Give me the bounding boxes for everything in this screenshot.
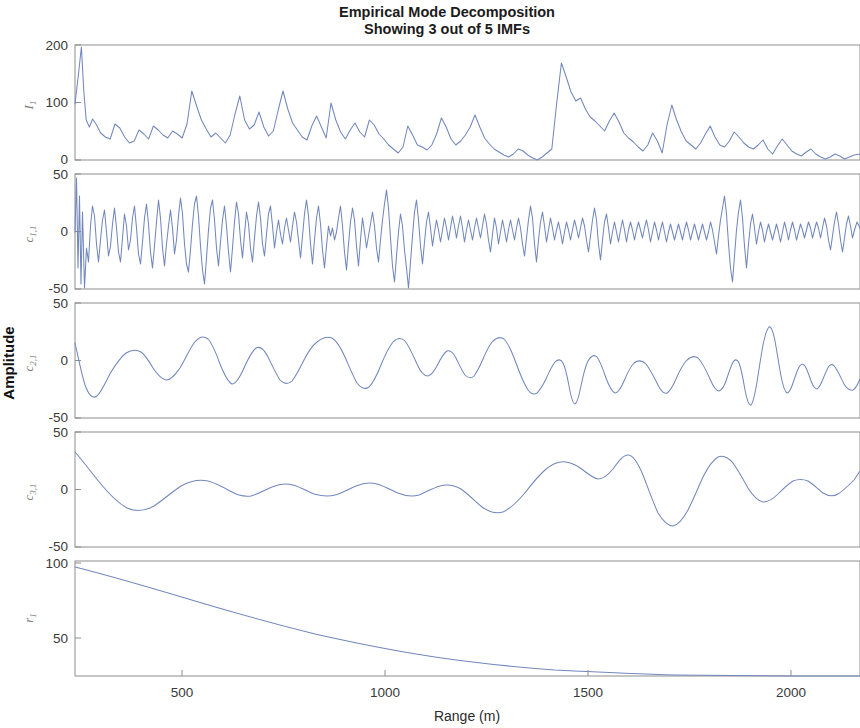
panel-imf2-ytick-50: 50 — [53, 296, 68, 311]
panel-imf3-ytick-m50: -50 — [48, 539, 68, 554]
panel-imf2-ytick-0: 0 — [60, 353, 68, 368]
emd-figure: Empirical Mode Decomposition Showing 3 o… — [0, 0, 860, 728]
x-axis-label-range: Range (m) — [434, 708, 500, 724]
panel-residual-ytick-50: 50 — [53, 631, 68, 646]
panel-imf2-ytick-m50: -50 — [48, 410, 68, 425]
y-axis-label-amplitude: Amplitude — [0, 326, 17, 399]
xtick-1000: 1000 — [370, 685, 400, 700]
xtick-1500: 1500 — [573, 685, 603, 700]
panel-imf1-ytick-50: 50 — [53, 167, 68, 182]
panel-imf1-ytick-0: 0 — [60, 224, 68, 239]
panel-signal-ytick-200: 200 — [45, 38, 68, 53]
figure-background — [0, 0, 860, 728]
figure-title-line1: Empirical Mode Decomposition — [339, 4, 555, 20]
panel-signal-ytick-0: 0 — [60, 152, 68, 167]
panel-imf1-ytick-m50: -50 — [48, 281, 68, 296]
panel-signal-ytick-100: 100 — [45, 95, 68, 110]
panel-imf3-ytick-50: 50 — [53, 425, 68, 440]
xtick-2000: 2000 — [776, 685, 806, 700]
xtick-500: 500 — [171, 685, 194, 700]
panel-residual-ytick-100: 100 — [45, 556, 68, 571]
figure-title-line2: Showing 3 out of 5 IMFs — [364, 21, 530, 37]
panel-imf3-ytick-0: 0 — [60, 482, 68, 497]
